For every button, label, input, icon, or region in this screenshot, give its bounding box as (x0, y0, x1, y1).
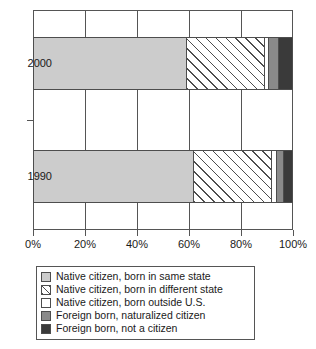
legend-swatch-dark-gray-icon (41, 324, 51, 334)
legend-item-outside-us: Native citizen, born outside U.S. (41, 296, 250, 309)
legend-label-same-state: Native citizen, born in same state (56, 270, 211, 283)
y-axis-label-1990: 1990 (12, 170, 52, 182)
x-axis-tick-60 (189, 230, 190, 236)
bar-1990-segment-different-state (193, 150, 271, 203)
legend-item-same-state: Native citizen, born in same state (41, 270, 250, 283)
bar-2000 (33, 37, 293, 90)
legend-swatch-medium-gray-icon (41, 311, 51, 321)
x-axis-label-20: 20% (63, 238, 107, 251)
x-axis-tick-40 (137, 230, 138, 236)
bar-2000-segment-not-a-citizen (278, 37, 293, 90)
legend-swatch-white-icon (41, 298, 51, 308)
chart-legend: Native citizen, born in same state Nativ… (36, 266, 255, 340)
x-axis-label-80: 80% (219, 238, 263, 251)
legend-label-different-state: Native citizen, born in different state (56, 283, 223, 296)
x-axis-tick-100 (293, 230, 294, 236)
y-axis-label-2000: 2000 (12, 57, 52, 69)
bar-1990-segment-not-a-citizen (283, 150, 293, 203)
x-axis-tick-80 (241, 230, 242, 236)
x-axis-tick-20 (85, 230, 86, 236)
bar-2000-segment-different-state (186, 37, 264, 90)
bar-2000-segment-naturalized (268, 37, 278, 90)
x-axis-label-0: 0% (11, 238, 55, 251)
bar-1990-segment-same-state (33, 150, 193, 203)
legend-label-not-a-citizen: Foreign born, not a citizen (56, 322, 177, 335)
bar-1990-segment-naturalized (276, 150, 283, 203)
x-axis-tick-0 (33, 230, 34, 236)
x-axis-label-60: 60% (167, 238, 211, 251)
legend-label-naturalized: Foreign born, naturalized citizen (56, 309, 205, 322)
y-axis-tick-middle (27, 120, 34, 121)
bar-2000-segment-same-state (33, 37, 186, 90)
x-axis-label-100: 100% (271, 238, 315, 251)
legend-label-outside-us: Native citizen, born outside U.S. (56, 296, 205, 309)
legend-item-naturalized: Foreign born, naturalized citizen (41, 309, 250, 322)
x-axis-label-40: 40% (115, 238, 159, 251)
legend-item-different-state: Native citizen, born in different state (41, 283, 250, 296)
bar-1990 (33, 150, 293, 203)
legend-swatch-light-gray-icon (41, 272, 51, 282)
stacked-bar-chart: 2000 1990 0% 20% 40% 60% 80% 100% (0, 0, 316, 258)
legend-item-not-a-citizen: Foreign born, not a citizen (41, 322, 250, 335)
legend-swatch-hatched-icon (41, 285, 51, 295)
